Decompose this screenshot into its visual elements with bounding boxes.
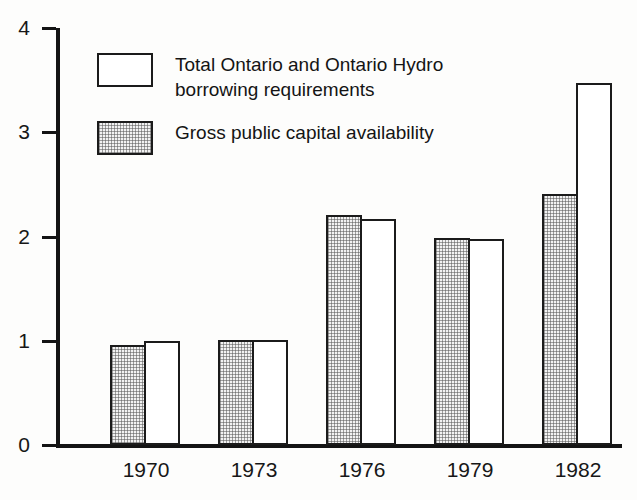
bar-1973-series-1 [218, 340, 254, 445]
bar-1970-series-2 [144, 341, 180, 445]
y-tick-0 [42, 444, 56, 447]
y-tick-label-3: 3 [0, 121, 30, 142]
y-tick-label-0: 0 [0, 434, 30, 455]
bar-1973-series-2 [252, 340, 288, 445]
legend-swatch-open-icon [97, 53, 153, 87]
chart-legend: Total Ontario and Ontario Hydro borrowin… [97, 52, 443, 173]
bar-1982-series-1 [542, 194, 578, 445]
y-tick-4 [42, 27, 56, 30]
y-tick-label-2: 2 [0, 226, 30, 247]
x-axis-label-1982: 1982 [523, 459, 633, 480]
bar-1976-series-1 [326, 215, 362, 445]
x-axis-label-1979: 1979 [415, 459, 525, 480]
bar-1982-series-2 [576, 83, 612, 445]
y-tick-1 [42, 340, 56, 343]
y-tick-label-1: 1 [0, 330, 30, 351]
bar-1970-series-1 [110, 345, 146, 445]
legend-item-hatched: Gross public capital availability [97, 120, 443, 155]
bar-1976-series-2 [360, 219, 396, 445]
legend-label-open: Total Ontario and Ontario Hydro borrowin… [175, 52, 443, 102]
x-axis-label-1970: 1970 [91, 459, 201, 480]
bar-chart: 01234 19701973197619791982 Total Ontario… [0, 0, 637, 500]
bar-1979-series-1 [434, 238, 470, 445]
legend-swatch-hatched-icon [97, 121, 153, 155]
y-tick-2 [42, 236, 56, 239]
y-tick-label-4: 4 [0, 17, 30, 38]
x-axis-label-1973: 1973 [199, 459, 309, 480]
bar-1979-series-2 [468, 239, 504, 445]
y-tick-3 [42, 131, 56, 134]
x-axis-label-1976: 1976 [307, 459, 417, 480]
legend-label-hatched: Gross public capital availability [175, 120, 434, 145]
legend-item-open: Total Ontario and Ontario Hydro borrowin… [97, 52, 443, 102]
